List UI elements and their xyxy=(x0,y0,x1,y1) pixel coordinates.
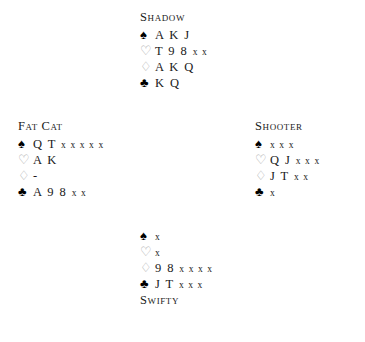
honour-cards: Q J xyxy=(270,153,291,167)
honour-cards: T 9 8 xyxy=(155,44,188,58)
hand-north: Shadow ♠A K J♡T 9 8 x x♢A K Q♣K Q xyxy=(140,10,208,91)
spade-icon: ♠ xyxy=(140,27,155,43)
suit-row-diamonds: ♢A K Q xyxy=(140,59,208,75)
suit-row-hearts: ♡Q J x x x xyxy=(255,152,320,168)
spade-icon: ♠ xyxy=(18,136,33,152)
hand-south: ♠x♡x♢9 8 x x x x♣J T x x x Swifty xyxy=(140,228,213,308)
suit-row-hearts: ♡T 9 8 x x xyxy=(140,43,208,59)
spot-cards: x xyxy=(155,232,161,242)
spot-cards: x x x xyxy=(179,280,204,290)
suit-row-clubs: ♣K Q xyxy=(140,75,208,91)
spot-cards: x xyxy=(270,188,276,198)
diamond-icon: ♢ xyxy=(255,168,270,184)
suit-row-spades: ♠Q T x x x x x xyxy=(18,136,104,152)
suit-row-diamonds: ♢- xyxy=(18,168,104,184)
cards-hearts: x xyxy=(155,244,161,261)
diamond-icon: ♢ xyxy=(18,168,33,184)
spot-cards: x x xyxy=(294,172,309,182)
suit-row-hearts: ♡x xyxy=(140,244,213,260)
heart-icon: ♡ xyxy=(140,43,155,59)
honour-cards: A K Q xyxy=(155,60,195,74)
suit-row-clubs: ♣A 9 8 x x xyxy=(18,184,104,200)
honour-cards: A 9 8 xyxy=(33,185,67,199)
cards-spades: x x x xyxy=(270,136,295,153)
spot-cards: x x xyxy=(72,188,87,198)
heart-icon: ♡ xyxy=(255,152,270,168)
suit-row-spades: ♠x x x xyxy=(255,136,320,152)
spade-icon: ♠ xyxy=(255,136,270,152)
diamond-icon: ♢ xyxy=(140,59,155,75)
club-icon: ♣ xyxy=(18,184,33,200)
hand-east: Shooter ♠x x x♡Q J x x x♢J T x x♣x xyxy=(255,119,320,200)
suit-row-spades: ♠x xyxy=(140,228,213,244)
cards-diamonds: - xyxy=(33,168,39,184)
suit-row-diamonds: ♢9 8 x x x x xyxy=(140,260,213,276)
cards-diamonds: J T x x xyxy=(270,168,309,185)
player-name-north: Shadow xyxy=(140,10,208,25)
player-name-south: Swifty xyxy=(140,293,213,308)
cards-hearts: T 9 8 x x xyxy=(155,43,208,60)
cards-clubs: A 9 8 x x xyxy=(33,184,87,201)
spot-cards: x x x xyxy=(296,156,321,166)
suit-rows-west: ♠Q T x x x x x♡A K♢-♣A 9 8 x x xyxy=(18,136,104,200)
spot-cards: x x x x x xyxy=(61,140,104,150)
cards-hearts: Q J x x x xyxy=(270,152,320,169)
honour-cards: K Q xyxy=(155,76,180,90)
suit-row-spades: ♠A K J xyxy=(140,27,208,43)
cards-clubs: K Q xyxy=(155,75,180,91)
club-icon: ♣ xyxy=(140,75,155,91)
cards-spades: A K J xyxy=(155,27,190,43)
club-icon: ♣ xyxy=(140,276,155,292)
suit-row-hearts: ♡A K xyxy=(18,152,104,168)
cards-hearts: A K xyxy=(33,152,58,168)
honour-cards: J T xyxy=(270,169,289,183)
honour-cards: J T xyxy=(155,277,174,291)
heart-icon: ♡ xyxy=(140,244,155,260)
cards-diamonds: A K Q xyxy=(155,59,195,75)
cards-clubs: J T x x x xyxy=(155,276,203,293)
spot-cards: x x xyxy=(193,47,208,57)
suit-rows-south: ♠x♡x♢9 8 x x x x♣J T x x x xyxy=(140,228,213,292)
spot-cards: x x x xyxy=(270,140,295,150)
cards-spades: x xyxy=(155,228,161,245)
spade-icon: ♠ xyxy=(140,228,155,244)
honour-cards: 9 8 xyxy=(155,261,175,275)
honour-cards: A K J xyxy=(155,28,190,42)
suit-rows-north: ♠A K J♡T 9 8 x x♢A K Q♣K Q xyxy=(140,27,208,91)
honour-cards: Q T xyxy=(33,137,57,151)
hand-west: Fat Cat ♠Q T x x x x x♡A K♢-♣A 9 8 x x xyxy=(18,119,104,200)
cards-spades: Q T x x x x x xyxy=(33,136,104,153)
club-icon: ♣ xyxy=(255,184,270,200)
spot-cards: x x x x xyxy=(179,264,213,274)
player-name-west: Fat Cat xyxy=(18,119,104,134)
honour-cards: A K xyxy=(33,153,58,167)
cards-diamonds: 9 8 x x x x xyxy=(155,260,213,277)
cards-clubs: x xyxy=(270,184,276,201)
suit-row-clubs: ♣x xyxy=(255,184,320,200)
suit-row-clubs: ♣J T x x x xyxy=(140,276,213,292)
diamond-icon: ♢ xyxy=(140,260,155,276)
player-name-east: Shooter xyxy=(255,119,320,134)
suit-rows-east: ♠x x x♡Q J x x x♢J T x x♣x xyxy=(255,136,320,200)
spot-cards: x xyxy=(155,248,161,258)
suit-row-diamonds: ♢J T x x xyxy=(255,168,320,184)
void-marker: - xyxy=(33,169,39,183)
heart-icon: ♡ xyxy=(18,152,33,168)
